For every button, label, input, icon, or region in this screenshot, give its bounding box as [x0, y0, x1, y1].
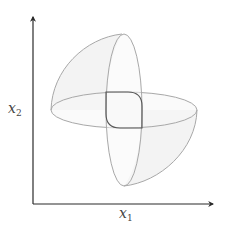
ellipsoid-diagram — [0, 0, 225, 233]
vertical-ellipse — [106, 34, 142, 186]
x2-label-subscript: 2 — [16, 108, 22, 118]
x2-label-base: x — [8, 100, 16, 116]
x2-axis-label: x2 — [8, 101, 22, 118]
x1-label-subscript: 1 — [127, 213, 133, 223]
x1-axis-label: x1 — [119, 206, 133, 223]
x1-label-base: x — [119, 205, 127, 221]
